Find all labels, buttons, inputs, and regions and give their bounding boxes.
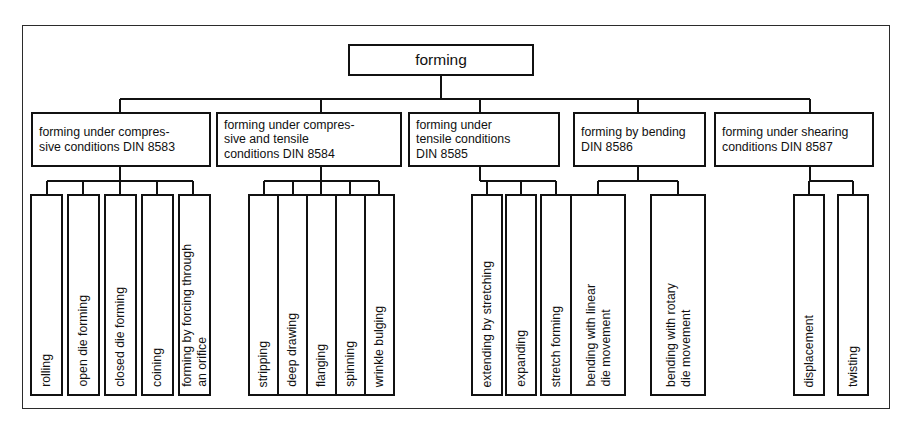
node-leaf-extending-by-stretching[interactable]: extending by stretching — [471, 194, 503, 396]
node-leaf-stretch-forming-label: stretch forming — [549, 306, 564, 387]
node-category-din-8586-label: forming by bending DIN 8586 — [581, 125, 686, 154]
node-leaf-stretch-forming[interactable]: stretch forming — [540, 194, 572, 396]
node-category-din-8583-label: forming under compres- sive conditions D… — [39, 125, 175, 154]
node-leaf-displacement[interactable]: displacement — [793, 194, 825, 396]
node-forming-root[interactable]: forming — [348, 44, 534, 76]
node-category-din-8584[interactable]: forming under compres- sive and tensile … — [216, 112, 402, 167]
node-leaf-forming-by-forcing-through-an-orifice[interactable]: forming by forcing through an orifice — [178, 194, 211, 396]
node-leaf-extending-by-stretching-label: extending by stretching — [480, 261, 495, 387]
node-leaf-rolling-label: rolling — [39, 354, 54, 387]
node-leaf-expanding-label: expanding — [514, 330, 529, 387]
node-category-din-8583[interactable]: forming under compres- sive conditions D… — [31, 112, 211, 167]
node-leaf-bending-with-linear-die-movement[interactable]: bending with linear die movement — [570, 194, 626, 396]
node-leaf-spinning[interactable]: spinning — [335, 194, 366, 396]
node-leaf-stripping-label: stripping — [256, 341, 271, 387]
node-leaf-open-die-forming[interactable]: open die forming — [67, 194, 100, 396]
node-category-din-8585[interactable]: forming under tensile conditions DIN 858… — [408, 112, 560, 167]
node-category-din-8587[interactable]: forming under shearing conditions DIN 85… — [714, 112, 874, 167]
node-leaf-bending-with-linear-die-movement-label: bending with linear die movement — [584, 284, 613, 387]
node-leaf-expanding[interactable]: expanding — [505, 194, 537, 396]
node-leaf-twisting-label: twisting — [846, 346, 861, 387]
node-leaf-deep-drawing-label: deep drawing — [285, 313, 300, 387]
node-leaf-coining-label: coining — [150, 348, 165, 387]
node-leaf-stripping[interactable]: stripping — [248, 194, 279, 396]
node-leaf-bending-with-rotary-die-movement-label: bending with rotary die movement — [664, 283, 693, 387]
node-leaf-coining[interactable]: coining — [141, 194, 174, 396]
node-leaf-displacement-label: displacement — [802, 315, 817, 387]
node-leaf-forming-by-forcing-through-an-orifice-label: forming by forcing through an orifice — [180, 244, 209, 387]
node-leaf-bending-with-rotary-die-movement[interactable]: bending with rotary die movement — [650, 194, 706, 396]
node-leaf-twisting[interactable]: twisting — [837, 194, 869, 396]
node-leaf-closed-die-forming-label: closed die forming — [113, 287, 128, 387]
node-leaf-deep-drawing[interactable]: deep drawing — [277, 194, 308, 396]
node-leaf-open-die-forming-label: open die forming — [76, 295, 91, 387]
node-leaf-closed-die-forming[interactable]: closed die forming — [104, 194, 137, 396]
forming-classification-diagram: forming forming under compres- sive cond… — [0, 0, 913, 437]
node-leaf-spinning-label: spinning — [343, 341, 358, 387]
node-leaf-flanging[interactable]: flanging — [306, 194, 337, 396]
node-category-din-8586[interactable]: forming by bending DIN 8586 — [573, 112, 706, 167]
node-category-din-8587-label: forming under shearing conditions DIN 85… — [722, 125, 848, 154]
node-leaf-flanging-label: flanging — [314, 344, 329, 387]
node-category-din-8584-label: forming under compres- sive and tensile … — [224, 118, 355, 162]
node-leaf-rolling[interactable]: rolling — [30, 194, 63, 396]
node-leaf-wrinkle-bulging[interactable]: wrinkle bulging — [364, 194, 395, 396]
node-forming-root-label: forming — [415, 51, 467, 69]
node-category-din-8585-label: forming under tensile conditions DIN 858… — [416, 118, 510, 162]
node-leaf-wrinkle-bulging-label: wrinkle bulging — [372, 306, 387, 387]
